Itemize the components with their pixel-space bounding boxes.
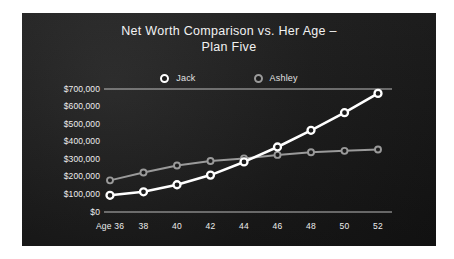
legend-marker-icon-jack [160,74,169,83]
data-point-jack-46 [274,143,281,150]
y-axis-tick-0: $700,000 [64,84,100,94]
slide-canvas: Net Worth Comparison vs. Her Age – Plan … [0,0,454,259]
data-point-jack-48 [308,127,315,134]
series-line-jack [110,93,378,195]
data-point-jack-52 [375,90,382,97]
y-axis-tick-6: $100,000 [64,189,100,199]
data-point-ashley-48 [308,149,314,155]
data-point-ashley-36 [107,177,113,183]
chart-title-line-2: Plan Five [22,39,436,55]
data-point-jack-38 [140,188,147,195]
y-axis-tick-5: $200,000 [64,171,100,181]
y-axis-tick-7: $0 [90,207,100,217]
data-point-ashley-46 [275,152,281,158]
chart-title-line-1: Net Worth Comparison vs. Her Age – [22,23,436,39]
y-axis-tick-2: $500,000 [64,119,100,129]
chart-panel: Net Worth Comparison vs. Her Age – Plan … [22,13,436,246]
y-axis-tick-3: $400,000 [64,136,100,146]
data-point-ashley-52 [375,146,381,152]
data-point-ashley-50 [342,148,348,154]
data-point-ashley-38 [141,169,147,175]
legend-item-ashley[interactable]: Ashley [254,73,298,83]
data-point-ashley-40 [174,162,180,168]
legend-item-jack[interactable]: Jack [160,73,195,83]
chart-legend: Jack Ashley [22,73,436,83]
legend-marker-icon-ashley [254,74,263,83]
data-point-jack-44 [241,158,248,165]
y-axis-tick-1: $600,000 [64,101,100,111]
legend-label-ashley: Ashley [270,73,298,83]
data-point-jack-40 [174,181,181,188]
chart-title: Net Worth Comparison vs. Her Age – Plan … [22,23,436,55]
y-axis-tick-4: $300,000 [64,154,100,164]
x-axis-tick-8: 52 [353,221,403,231]
data-point-jack-42 [207,172,214,179]
legend-label-jack: Jack [176,73,195,83]
data-point-jack-50 [341,109,348,116]
data-point-jack-36 [107,192,114,199]
data-point-ashley-42 [208,158,214,164]
